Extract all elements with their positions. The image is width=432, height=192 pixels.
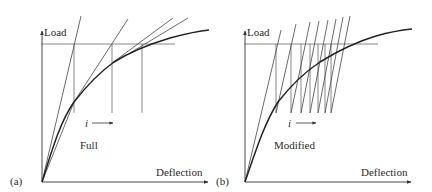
method-label: Modified bbox=[274, 140, 315, 151]
panel-tag: (a) bbox=[10, 176, 22, 187]
tangent-line-2 bbox=[74, 19, 128, 102]
iteration-label: i bbox=[85, 118, 88, 129]
parallel-line-5 bbox=[318, 19, 336, 113]
method-label: Full bbox=[80, 140, 98, 151]
panel-a bbox=[41, 16, 209, 182]
tangent-line-1 bbox=[42, 16, 81, 182]
y-axis-label: Load bbox=[44, 27, 67, 38]
load-deflection-curve bbox=[245, 29, 412, 182]
panel-tag: (b) bbox=[216, 176, 229, 187]
y-axis-label: Load bbox=[247, 27, 270, 38]
iteration-label: i bbox=[288, 118, 291, 129]
parallel-line-2 bbox=[291, 22, 310, 113]
x-axis-label: Deflection bbox=[361, 167, 407, 178]
panel-b bbox=[244, 16, 412, 182]
x-axis-label: Deflection bbox=[156, 167, 202, 178]
